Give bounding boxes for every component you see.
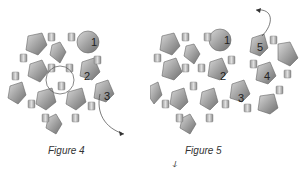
figure-4-caption: Figure 4 bbox=[48, 145, 85, 156]
step-label-5: 5 bbox=[257, 41, 263, 53]
figure-5-diagram: 1 2 3 4 5 bbox=[150, 0, 301, 150]
thread-arrow bbox=[256, 10, 270, 36]
step-label-3: 3 bbox=[238, 92, 244, 104]
step-label-3: 3 bbox=[104, 90, 110, 102]
step-label-4: 4 bbox=[264, 70, 270, 82]
step-label-1: 1 bbox=[91, 36, 97, 48]
step-label-1: 1 bbox=[224, 34, 230, 46]
figure-4-diagram: 1 2 3 bbox=[0, 0, 150, 150]
step-label-2: 2 bbox=[84, 70, 90, 82]
figure-5-caption: Figure 5 bbox=[185, 145, 222, 156]
step-label-2: 2 bbox=[220, 70, 226, 82]
arrow-head-icon bbox=[256, 8, 261, 13]
stray-mark: ↆ bbox=[172, 159, 177, 170]
